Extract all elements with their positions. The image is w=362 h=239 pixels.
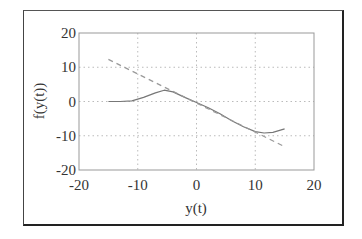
y-tick-label: -20 [56, 162, 76, 178]
y-axis-label: f(y(t)) [31, 83, 48, 120]
x-tick-label: -20 [69, 177, 89, 193]
x-tick-label: 10 [248, 177, 263, 193]
y-tick-label: 0 [69, 94, 77, 110]
x-tick-label: 0 [193, 177, 201, 193]
x-axis-ticks: -20-1001020 [69, 177, 322, 193]
y-axis-ticks: -20-1001020 [56, 25, 76, 178]
line-chart: -20-1001020 -20-1001020 y(t) f(y(t)) [0, 0, 362, 239]
x-tick-label: 20 [307, 177, 322, 193]
data-series [108, 59, 284, 146]
y-tick-label: 20 [61, 25, 76, 41]
x-tick-label: -10 [128, 177, 148, 193]
y-tick-label: 10 [61, 59, 76, 75]
y-tick-label: -10 [56, 128, 76, 144]
x-axis-label: y(t) [185, 200, 207, 217]
